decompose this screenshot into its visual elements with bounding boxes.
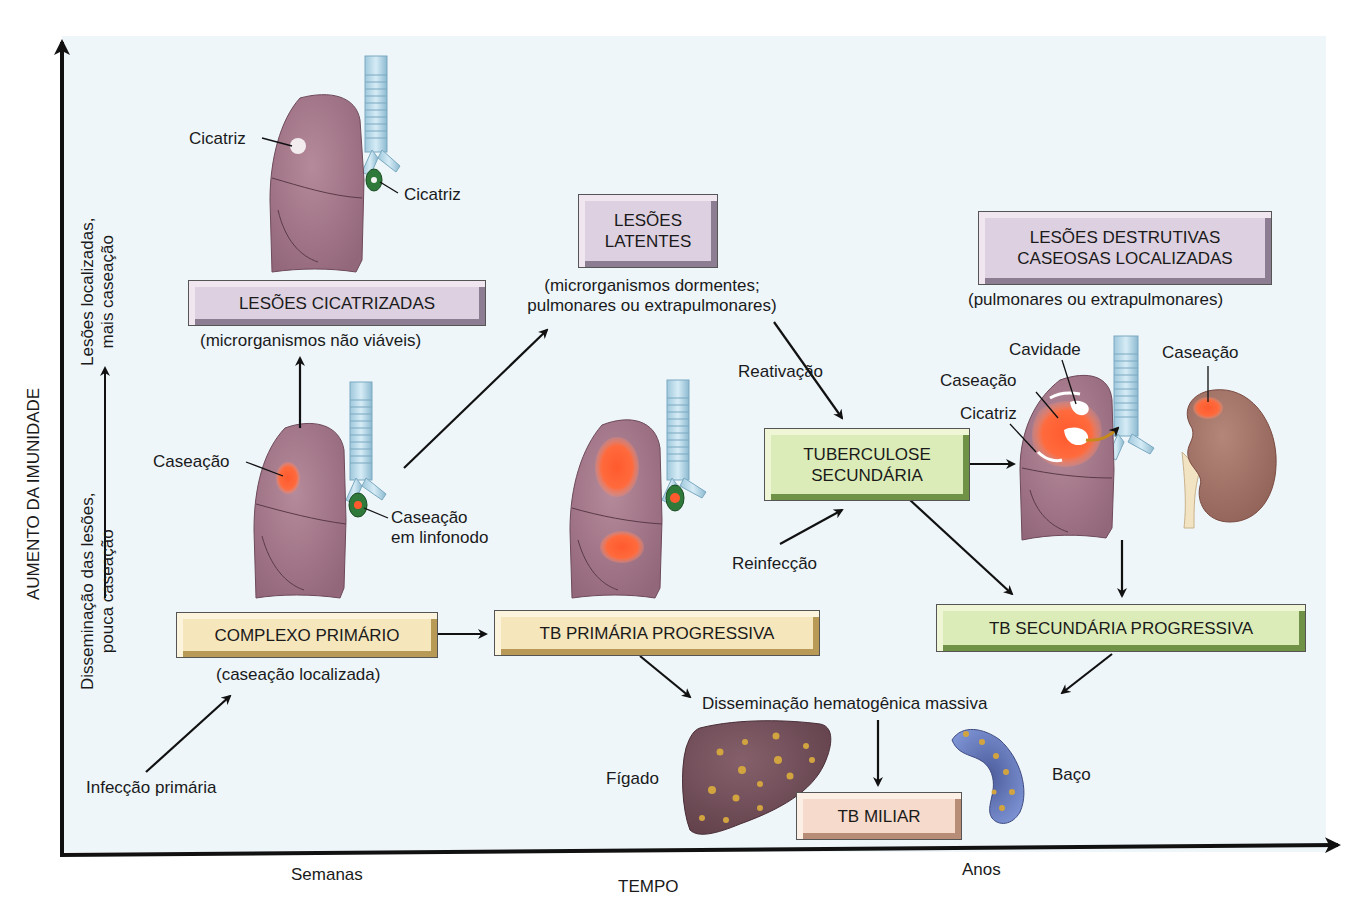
label-reactivation: Reativação (738, 362, 823, 382)
y-lower-label-line2: pouca caseação (98, 493, 118, 690)
note-latent-lesions: (microrganismos dormentes; pulmonares ou… (494, 276, 810, 316)
box-healed-lesions: LESÕES CICATRIZADAS (188, 280, 486, 326)
label-caseation-node: Caseação em linfonodo (391, 508, 488, 548)
note-latent-line2: pulmonares ou extrapulmonares) (494, 296, 810, 316)
y-upper-label-line1: Lesões localizadas, (78, 218, 98, 366)
box-secondary-tb: TUBERCULOSE SECUNDÁRIA (764, 428, 970, 501)
box-progressive-secondary: TB SECUNDÁRIA PROGRESSIVA (936, 604, 1306, 652)
label-caseation-secondary: Caseação (940, 371, 1017, 391)
box-secondary-tb-line2: SECUNDÁRIA (811, 465, 922, 486)
label-spleen: Baço (1052, 765, 1091, 785)
label-caseation-node-line1: Caseação (391, 508, 488, 528)
x-tick-weeks: Semanas (291, 865, 363, 885)
note-healed-lesions: (microrganismos não viáveis) (200, 331, 421, 351)
label-liver: Fígado (606, 769, 659, 789)
y-lower-label-line1: Disseminação das lesões, (78, 493, 98, 690)
box-miliary-tb-label: TB MILIAR (837, 806, 920, 827)
label-scar-node: Cicatriz (404, 185, 461, 205)
box-primary-complex: COMPLEXO PRIMÁRIO (176, 612, 438, 658)
y-axis-lower-label: Disseminação das lesões, pouca caseação (78, 493, 118, 690)
box-healed-lesions-label: LESÕES CICATRIZADAS (239, 293, 435, 314)
progressive-primary-lung-illustration (570, 380, 706, 598)
box-latent-lesions: LESÕES LATENTES (578, 194, 718, 268)
box-destructive-label-line2: CASEOSAS LOCALIZADAS (1017, 248, 1232, 269)
secondary-lung-illustration (1010, 336, 1154, 540)
note-destructive-lesions: (pulmonares ou extrapulmonares) (968, 290, 1223, 310)
box-destructive-lesions: LESÕES DESTRUTIVAS CASEOSAS LOCALIZADAS (978, 211, 1272, 285)
x-tick-years: Anos (962, 860, 1001, 880)
label-primary-infection: Infecção primária (86, 778, 216, 798)
y-upper-label-line2: mais caseação (98, 218, 118, 366)
label-caseation-lung: Caseação (153, 452, 230, 472)
primary-complex-lung-illustration (246, 382, 388, 598)
label-cavity: Cavidade (1009, 340, 1081, 360)
label-hematogenous-spread: Disseminação hematogênica massiva (702, 694, 987, 714)
box-latent-label-line1: LESÕES (614, 210, 682, 231)
box-progressive-primary-label: TB PRIMÁRIA PROGRESSIVA (540, 623, 775, 644)
y-axis-title: AUMENTO DA IMUNIDADE (24, 388, 44, 600)
label-caseation-kidney: Caseação (1162, 343, 1239, 363)
box-progressive-primary: TB PRIMÁRIA PROGRESSIVA (494, 610, 820, 656)
spleen-illustration (952, 729, 1024, 823)
box-progressive-secondary-label: TB SECUNDÁRIA PROGRESSIVA (989, 618, 1253, 639)
label-scar-secondary: Cicatriz (960, 404, 1017, 424)
box-destructive-label-line1: LESÕES DESTRUTIVAS (1030, 227, 1221, 248)
label-scar-lung: Cicatriz (189, 129, 246, 149)
healed-lung-illustration (262, 56, 400, 272)
x-axis-title: TEMPO (618, 877, 678, 897)
box-latent-label-line2: LATENTES (605, 231, 692, 252)
kidney-illustration (1182, 366, 1276, 528)
label-reinfection: Reinfecção (732, 554, 817, 574)
y-axis-upper-label: Lesões localizadas, mais caseação (78, 218, 118, 366)
label-caseation-node-line2: em linfonodo (391, 528, 488, 548)
note-primary-complex: (caseação localizada) (216, 665, 380, 685)
note-latent-line1: (microrganismos dormentes; (494, 276, 810, 296)
box-secondary-tb-line1: TUBERCULOSE (803, 444, 931, 465)
box-primary-complex-label: COMPLEXO PRIMÁRIO (214, 625, 399, 646)
box-miliary-tb: TB MILIAR (796, 792, 962, 840)
